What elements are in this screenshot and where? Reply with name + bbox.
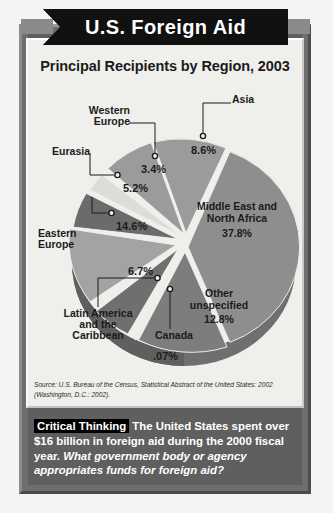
banner-tail-left-icon (21, 19, 53, 34)
critical-thinking-question: What government body or agency appropria… (34, 450, 247, 477)
pie-value-other-unspecified: 12.8% (176, 314, 262, 326)
pie-label-western-europe: Western Europe (60, 105, 130, 127)
source-text: U.S. Bureau of the Census, Statistical A… (34, 381, 273, 398)
leader-asia (203, 103, 231, 111)
pie-label-canada: Canada (147, 330, 201, 341)
title-banner: U.S. Foreign Aid (43, 9, 288, 45)
pie-value-eurasia: 5.2% (123, 183, 148, 195)
leader-eurasia (90, 153, 114, 175)
pie-label-other-unspecified: Other unspecified (176, 288, 262, 312)
pie-label-eurasia: Eurasia (34, 146, 90, 157)
pie-value-latin-america: 6.7% (128, 266, 153, 278)
marker-canada (167, 286, 172, 291)
marker-asia (200, 133, 205, 138)
critical-thinking-tag: Critical Thinking (34, 419, 129, 433)
pie-label-middle-east: Middle East and North Africa (185, 201, 289, 225)
pie-value-asia: 8.6% (191, 145, 216, 157)
page-title: U.S. Foreign Aid (43, 9, 288, 45)
pie-label-asia: Asia (232, 94, 254, 105)
chart-panel: Principal Recipients by Region, 2003 (26, 38, 304, 408)
source-prefix: Source: (34, 381, 57, 388)
pie-label-latin-america: Latin America and the Caribbean (46, 308, 150, 341)
pie-value-canada: .07% (153, 351, 178, 363)
pie-value-middle-east: 37.8% (185, 228, 289, 240)
marker-latin-america (155, 275, 160, 280)
critical-thinking-block: Critical ThinkingThe United States spent… (26, 414, 304, 486)
source-note: Source: U.S. Bureau of the Census, Stati… (30, 378, 296, 404)
pie-value-eastern-europe: 14.6% (116, 221, 147, 233)
pie-label-eastern-europe: Eastern Europe (38, 228, 96, 250)
marker-western-europe (152, 153, 157, 158)
marker-eurasia (115, 172, 120, 177)
pie-value-western-europe: 3.4% (141, 164, 166, 176)
marker-eastern-europe (109, 210, 114, 215)
